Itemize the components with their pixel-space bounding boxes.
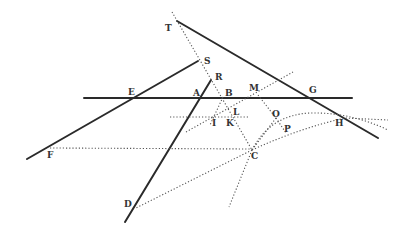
label-t: T bbox=[165, 23, 172, 33]
line-t-h bbox=[177, 21, 378, 138]
label-f: F bbox=[47, 150, 54, 160]
dotted-c-down bbox=[229, 150, 252, 207]
label-b: B bbox=[225, 88, 233, 98]
label-r: R bbox=[215, 72, 223, 82]
geometry-figure: T S R E A B M G L I K O P H F C D bbox=[0, 0, 406, 236]
label-l: L bbox=[233, 107, 240, 117]
label-d: D bbox=[124, 199, 132, 209]
dotted-c-d bbox=[136, 150, 252, 208]
label-e: E bbox=[128, 87, 135, 97]
label-o: O bbox=[272, 109, 280, 119]
label-p: P bbox=[284, 124, 291, 134]
label-c: C bbox=[251, 151, 258, 161]
line-r-d bbox=[125, 80, 211, 222]
dotted-m-ext bbox=[186, 72, 293, 132]
label-k: K bbox=[226, 118, 235, 128]
label-g: G bbox=[309, 85, 317, 95]
curve-c-h-lower bbox=[252, 118, 388, 150]
dotted-f-c bbox=[50, 148, 252, 149]
label-a: A bbox=[192, 88, 201, 98]
label-m: M bbox=[249, 83, 259, 93]
label-s: S bbox=[204, 56, 211, 66]
dotted-t-c bbox=[172, 12, 252, 150]
label-h: H bbox=[335, 118, 344, 128]
label-i: I bbox=[212, 118, 216, 128]
